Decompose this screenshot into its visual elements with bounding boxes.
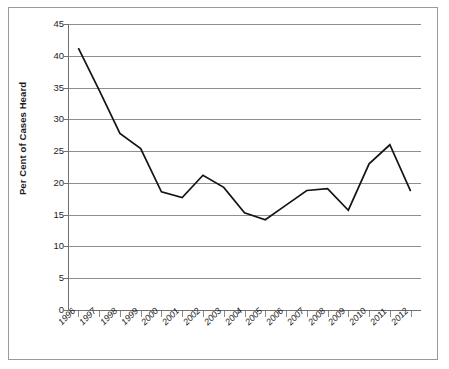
x-tick-mark-2011 bbox=[390, 311, 391, 317]
y-tick-mark-45 bbox=[64, 24, 69, 25]
x-tick-mark-2006 bbox=[286, 311, 287, 317]
y-tick-label-10: 10 bbox=[53, 241, 64, 251]
y-tick-mark-15 bbox=[64, 215, 69, 216]
y-tick-label-30: 30 bbox=[53, 114, 64, 124]
x-tick-mark-1998 bbox=[120, 311, 121, 317]
y-axis-tick-labels: 051015202530354045 bbox=[30, 0, 64, 369]
y-tick-label-15: 15 bbox=[53, 210, 64, 220]
gridline-y-45 bbox=[68, 24, 421, 25]
plot-area bbox=[68, 24, 421, 310]
gridline-y-30 bbox=[68, 119, 421, 120]
y-tick-mark-25 bbox=[64, 151, 69, 152]
y-tick-label-35: 35 bbox=[53, 83, 64, 93]
y-tick-mark-35 bbox=[64, 88, 69, 89]
gridline-y-10 bbox=[68, 246, 421, 247]
y-tick-mark-0 bbox=[64, 310, 69, 311]
y-tick-label-45: 45 bbox=[53, 19, 64, 29]
x-tick-mark-2002 bbox=[203, 311, 204, 317]
gridline-y-5 bbox=[68, 278, 421, 279]
y-tick-mark-20 bbox=[64, 183, 69, 184]
gridline-y-40 bbox=[68, 56, 421, 57]
y-tick-mark-10 bbox=[64, 246, 69, 247]
y-tick-label-25: 25 bbox=[53, 146, 64, 156]
gridline-y-15 bbox=[68, 215, 421, 216]
y-tick-label-40: 40 bbox=[53, 51, 64, 61]
x-tick-mark-2003 bbox=[224, 311, 225, 317]
x-tick-mark-2007 bbox=[307, 311, 308, 317]
y-tick-mark-5 bbox=[64, 278, 69, 279]
y-tick-mark-40 bbox=[64, 56, 69, 57]
y-tick-label-20: 20 bbox=[53, 178, 64, 188]
x-tick-mark-2012 bbox=[411, 311, 412, 317]
chart-figure: Per Cent of Cases Heard 0510152025303540… bbox=[0, 0, 449, 369]
gridline-y-25 bbox=[68, 151, 421, 152]
gridline-y-20 bbox=[68, 183, 421, 184]
y-axis-title: Per Cent of Cases Heard bbox=[17, 74, 28, 204]
gridline-y-35 bbox=[68, 88, 421, 89]
y-tick-mark-30 bbox=[64, 119, 69, 120]
